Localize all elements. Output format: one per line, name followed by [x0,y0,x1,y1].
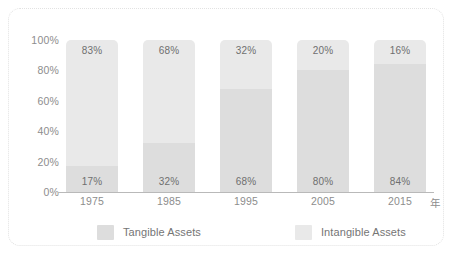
bar-segment-tangible: 84% [374,64,426,192]
stacked-bar[interactable]: 16% 84% [374,40,426,192]
bar-value-label: 20% [313,45,334,56]
legend-swatch-icon [97,225,114,240]
x-axis-tick-1985: 1985 [143,195,195,211]
plot-area: 100% 80% 60% 40% 20% 0% 83% 17% 6 [66,40,426,192]
stacked-bar[interactable]: 20% 80% [297,40,349,192]
legend-item-intangible[interactable]: Intangible Assets [295,222,406,242]
y-axis-tick: 100% [31,34,59,46]
bar-segment-intangible: 20% [297,40,349,70]
x-axis-unit-label: 年 [430,195,440,210]
y-axis-tick: 0% [43,186,59,198]
bar-slot-1985: 68% 32% [143,40,195,192]
bar-slot-2005: 20% 80% [297,40,349,192]
y-axis-tick: 60% [37,95,59,107]
legend-label: Intangible Assets [321,226,406,238]
bar-slot-1995: 32% 68% [220,40,272,192]
bar-segment-intangible: 32% [220,40,272,89]
bar-slot-1975: 83% 17% [66,40,118,192]
chart-legend: Tangible Assets Intangible Assets [66,222,426,242]
bar-value-label: 83% [82,45,103,56]
legend-item-tangible[interactable]: Tangible Assets [97,222,201,242]
chart-card: 100% 80% 60% 40% 20% 0% 83% 17% 6 [8,8,444,246]
bar-segment-tangible: 68% [220,89,272,192]
y-axis-tick: 40% [37,125,59,137]
stacked-bar[interactable]: 32% 68% [220,40,272,192]
bar-segment-intangible: 16% [374,40,426,64]
y-axis-tick: 80% [37,64,59,76]
y-axis-tick: 20% [37,156,59,168]
bar-value-label: 17% [82,176,103,187]
stacked-bar[interactable]: 83% 17% [66,40,118,192]
bar-segment-tangible: 17% [66,166,118,192]
bar-group: 83% 17% 68% 32% [66,40,426,192]
x-axis-tick-2005: 2005 [297,195,349,211]
bar-value-label: 80% [313,176,334,187]
bar-value-label: 16% [390,45,411,56]
bar-segment-tangible: 32% [143,143,195,192]
legend-label: Tangible Assets [123,226,201,238]
x-axis-tick-1975: 1975 [66,195,118,211]
bar-segment-intangible: 83% [66,40,118,166]
bar-value-label: 32% [236,45,257,56]
x-axis-tick-2015: 2015 [374,195,426,211]
bar-segment-tangible: 80% [297,70,349,192]
bar-value-label: 32% [159,176,180,187]
bar-value-label: 84% [390,176,411,187]
stacked-bar[interactable]: 68% 32% [143,40,195,192]
x-axis-labels: 1975 1985 1995 2005 2015 [66,195,426,211]
x-axis-tick-1995: 1995 [220,195,272,211]
bar-segment-intangible: 68% [143,40,195,143]
bar-slot-2015: 16% 84% [374,40,426,192]
legend-swatch-icon [295,225,312,240]
bar-value-label: 68% [236,176,257,187]
x-axis-line [58,192,434,193]
bar-value-label: 68% [159,45,180,56]
